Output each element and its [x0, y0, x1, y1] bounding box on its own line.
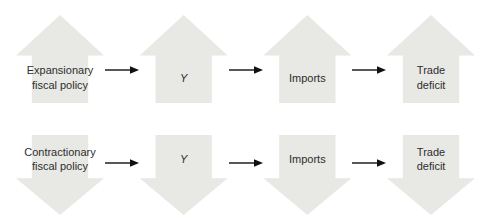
step-label: Expansionary fiscal policy — [16, 55, 104, 100]
step-label: Y — [140, 55, 228, 100]
step-trade-deficit-down: Trade deficit — [387, 135, 475, 215]
right-arrow-icon — [229, 65, 263, 75]
step-label-text: Imports — [289, 71, 326, 85]
right-arrow-icon — [352, 65, 386, 75]
step-imports-down: Imports — [263, 135, 351, 215]
step-label-text: Y — [180, 152, 187, 166]
step-imports-up: Imports — [263, 15, 351, 103]
right-arrow-icon — [352, 158, 386, 168]
step-contractionary-fiscal-policy: Contractionary fiscal policy — [16, 135, 104, 215]
step-label: Contractionary fiscal policy — [16, 138, 104, 180]
step-label-text: Y — [180, 71, 187, 85]
step-expansionary-fiscal-policy: Expansionary fiscal policy — [16, 15, 104, 103]
step-label-text: Expansionary fiscal policy — [18, 63, 102, 92]
step-label: Imports — [263, 55, 351, 100]
expansionary-row: Expansionary fiscal policy Y Impor — [0, 15, 489, 103]
right-arrow-icon — [105, 158, 139, 168]
right-arrow-connector — [104, 15, 140, 103]
right-arrow-connector — [351, 135, 387, 215]
step-income-y-up: Y — [140, 15, 228, 103]
step-label-text: Trade deficit — [409, 145, 453, 174]
step-label: Trade deficit — [387, 138, 475, 180]
fiscal-policy-trade-deficit-diagram: Expansionary fiscal policy Y Impor — [0, 0, 489, 222]
step-trade-deficit-up: Trade deficit — [387, 15, 475, 103]
step-label: Trade deficit — [387, 55, 475, 100]
right-arrow-icon — [105, 65, 139, 75]
step-label-text: Imports — [289, 152, 326, 166]
contractionary-row: Contractionary fiscal policy Y Imp — [0, 135, 489, 215]
step-income-y-down: Y — [140, 135, 228, 215]
right-arrow-connector — [104, 135, 140, 215]
right-arrow-icon — [229, 158, 263, 168]
step-label-text: Contractionary fiscal policy — [18, 145, 102, 174]
right-arrow-connector — [228, 15, 264, 103]
right-arrow-connector — [351, 15, 387, 103]
step-label: Y — [140, 138, 228, 180]
right-arrow-connector — [228, 135, 264, 215]
step-label: Imports — [263, 138, 351, 180]
step-label-text: Trade deficit — [409, 63, 453, 92]
